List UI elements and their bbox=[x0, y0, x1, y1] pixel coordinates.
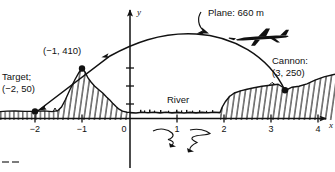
plane-altitude-label: Plane: 660 m bbox=[208, 7, 264, 18]
river-squiggle-2 bbox=[190, 129, 210, 150]
river-squiggle-2-tip bbox=[187, 148, 194, 153]
hill-peak-point bbox=[79, 65, 85, 71]
plane-callout-arrow bbox=[199, 12, 204, 31]
trajectory-arrow-left bbox=[101, 53, 109, 58]
x-axis-label: x bbox=[328, 120, 333, 130]
left-hill-fill bbox=[58, 69, 129, 121]
x-tick-label-2: 2 bbox=[221, 124, 226, 134]
airplane-icon bbox=[229, 29, 289, 46]
river-bed bbox=[130, 112, 220, 113]
peak-coordinate-label: (−1, 410) bbox=[43, 45, 81, 56]
trajectory-diagram: −2 −1 0 1 2 3 4 x y bbox=[0, 0, 335, 172]
right-hill-fill bbox=[220, 74, 335, 120]
cannon-point bbox=[282, 87, 288, 93]
target-label-line1: Target; bbox=[2, 71, 31, 82]
river-label: River bbox=[167, 94, 189, 105]
figure-panel: −2 −1 0 1 2 3 4 x y bbox=[0, 0, 335, 172]
target-point bbox=[32, 108, 38, 114]
cannon-label-line2: (3, 250) bbox=[272, 67, 305, 78]
cannon-label-line1: Cannon: bbox=[272, 55, 308, 66]
x-tick-label-1: 1 bbox=[174, 124, 179, 134]
target-label-line2: (−2, 50) bbox=[2, 83, 35, 94]
x-tick-label-4: 4 bbox=[315, 124, 320, 134]
caption-fragment bbox=[2, 161, 19, 163]
x-tick-label-0: 0 bbox=[121, 124, 126, 134]
river-squiggles bbox=[153, 129, 210, 152]
y-axis-label: y bbox=[136, 7, 141, 17]
x-tick-label--2: −2 bbox=[30, 124, 40, 134]
left-flat-ground-outline bbox=[0, 111, 58, 112]
river-squiggle-1 bbox=[153, 129, 173, 145]
x-tick-label--1: −1 bbox=[77, 124, 87, 134]
x-tick-label-3: 3 bbox=[268, 124, 273, 134]
